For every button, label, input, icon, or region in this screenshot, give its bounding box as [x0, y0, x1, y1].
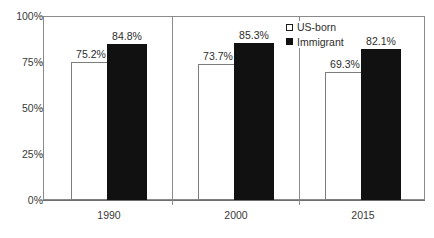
value-label-us-born-2000: 73.7% — [203, 50, 233, 62]
value-label-immigrant-2000: 85.3% — [239, 29, 269, 41]
x-tick-mark-1 — [172, 200, 173, 205]
bar-us-born-2000 — [198, 64, 238, 200]
legend-label-immigrant: Immigrant — [297, 37, 344, 48]
y-axis-line — [43, 16, 44, 200]
bar-immigrant-1990 — [107, 44, 147, 200]
value-label-immigrant-2015: 82.1% — [366, 35, 396, 47]
filled-square-icon — [286, 38, 293, 45]
bar-immigrant-2000 — [234, 43, 274, 200]
x-tick-label-2000: 2000 — [224, 209, 247, 221]
y-tick-mark-50 — [38, 108, 43, 109]
legend-item-us-born: US-born — [286, 22, 344, 33]
bar-immigrant-2015 — [361, 49, 401, 200]
y-tick-mark-25 — [38, 154, 43, 155]
x-tick-label-2015: 2015 — [351, 209, 374, 221]
value-label-immigrant-1990: 84.8% — [112, 30, 142, 42]
bar-us-born-1990 — [71, 62, 111, 200]
y-tick-mark-75 — [38, 62, 43, 63]
category-separator-1 — [172, 16, 173, 200]
legend-item-immigrant: Immigrant — [286, 37, 344, 48]
value-label-us-born-1990: 75.2% — [76, 48, 106, 60]
hollow-square-icon — [286, 24, 293, 31]
bar-chart: 100% 75% 50% 25% 0% 75.2% 84.8% 73.7% 85… — [0, 0, 434, 238]
legend-label-us-born: US-born — [297, 22, 336, 33]
y-tick-mark-100 — [38, 16, 43, 17]
x-tick-mark-2 — [299, 200, 300, 205]
x-tick-label-1990: 1990 — [97, 209, 120, 221]
x-axis-line — [43, 200, 425, 201]
legend: US-born Immigrant — [284, 21, 346, 48]
value-label-us-born-2015: 69.3% — [330, 58, 360, 70]
bar-us-born-2015 — [325, 72, 365, 200]
y-axis: 100% 75% 50% 25% 0% — [0, 0, 43, 238]
